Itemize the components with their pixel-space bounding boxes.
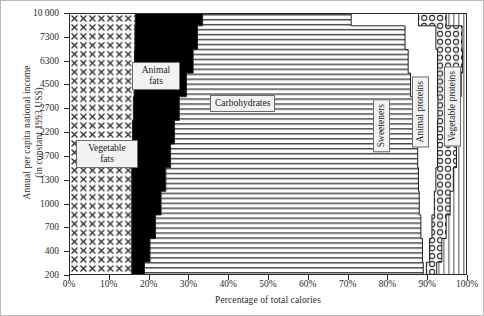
- y-tick-label: 1700: [3, 151, 59, 161]
- chart-figure: Annual per capita national income (in co…: [0, 0, 484, 316]
- y-tick-label: 700: [3, 222, 59, 232]
- x-tick-label: 20%: [129, 279, 169, 289]
- y-tick-label: 1300: [3, 175, 59, 185]
- x-tick-mark: [149, 275, 150, 280]
- x-tick-mark: [467, 275, 468, 280]
- x-tick-label: 70%: [328, 279, 368, 289]
- y-tick-label: 7300: [3, 32, 59, 42]
- y-tick-label: 6300: [3, 56, 59, 66]
- band-label-vegetable-proteins: Vegetable proteins: [444, 66, 461, 146]
- x-tick-mark: [308, 275, 309, 280]
- x-tick-label: 100%: [447, 279, 484, 289]
- band-label-animal-fats: Animal fats: [132, 62, 180, 90]
- band-label-carbohydrates: Carbohydrates: [210, 95, 275, 112]
- x-tick-label: 30%: [168, 279, 208, 289]
- plot-area: Vegetable fats Animal fats Carbohydrates…: [69, 13, 467, 275]
- x-tick-mark: [427, 275, 428, 280]
- x-tick-label: 80%: [367, 279, 407, 289]
- x-tick-label: 0%: [49, 279, 89, 289]
- y-tick-label: 2700: [3, 103, 59, 113]
- band-label-vegetable-fats: Vegetable fats: [76, 140, 138, 168]
- y-tick-label: 400: [3, 246, 59, 256]
- band-label-animal-proteins: Animal proteins: [412, 76, 429, 147]
- y-tick-label: 2200: [3, 127, 59, 137]
- x-tick-label: 60%: [288, 279, 328, 289]
- x-tick-mark: [228, 275, 229, 280]
- x-tick-mark: [387, 275, 388, 280]
- x-tick-mark: [69, 275, 70, 280]
- x-tick-label: 40%: [208, 279, 248, 289]
- x-tick-mark: [348, 275, 349, 280]
- x-tick-mark: [188, 275, 189, 280]
- x-tick-label: 10%: [89, 279, 129, 289]
- x-tick-mark: [109, 275, 110, 280]
- x-tick-mark: [268, 275, 269, 280]
- x-tick-label: 90%: [407, 279, 447, 289]
- x-axis-title: Percentage of total calories: [69, 295, 467, 305]
- y-tick-label: 1000: [3, 199, 59, 209]
- band-label-sweeteners: Sweeteners: [373, 99, 390, 152]
- y-tick-label: 4500: [3, 79, 59, 89]
- y-tick-label: 10 000: [3, 8, 59, 18]
- x-tick-label: 50%: [248, 279, 288, 289]
